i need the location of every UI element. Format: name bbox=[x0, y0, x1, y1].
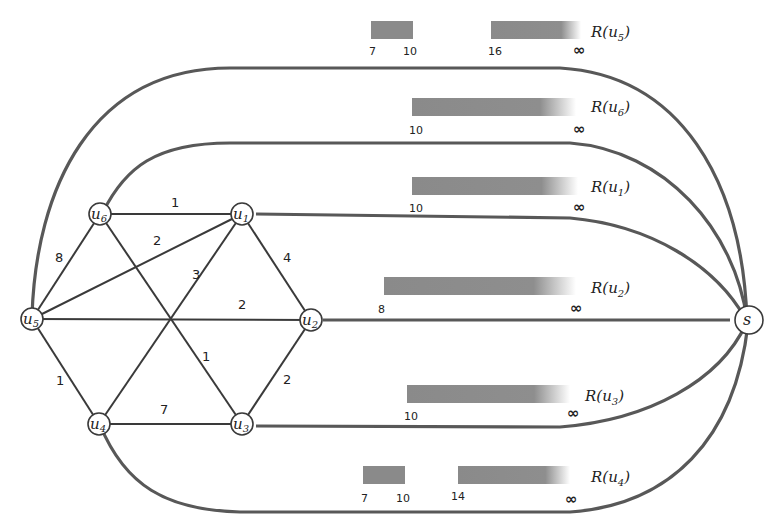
range-u3-tick-10: 10 bbox=[404, 410, 418, 423]
node-u6[interactable]: u6 bbox=[89, 203, 111, 225]
range-u4-tick-10: 10 bbox=[396, 492, 410, 505]
graph-edges bbox=[32, 214, 311, 424]
node-u3[interactable]: u3 bbox=[231, 413, 253, 435]
node-u5[interactable]: u5 bbox=[21, 308, 43, 330]
range-u2-label: R(u2) bbox=[590, 279, 630, 299]
range-u6-infinity: ∞ bbox=[573, 120, 586, 138]
weight-u6-u1: 1 bbox=[171, 195, 179, 210]
range-u5-bar-2 bbox=[491, 21, 581, 39]
graph-diagram: 1 2 3 4 8 2 1 1 2 7 u1 u2 u3 u4 u5 u6 s bbox=[0, 0, 780, 531]
route-u3-s bbox=[256, 324, 746, 427]
range-u5-tick-10: 10 bbox=[403, 45, 417, 58]
range-u5-tick-16: 16 bbox=[488, 45, 502, 58]
range-u5: 7 10 16 ∞ R(u5) bbox=[369, 21, 630, 59]
range-u2-infinity: ∞ bbox=[570, 299, 583, 317]
range-u3: 10 ∞ R(u3) bbox=[404, 385, 624, 423]
node-u2[interactable]: u2 bbox=[300, 309, 322, 331]
range-u4-infinity: ∞ bbox=[565, 490, 578, 508]
range-u1-bar bbox=[412, 177, 578, 195]
weight-u5-u2: 2 bbox=[238, 297, 246, 312]
weight-u4-u1: 3 bbox=[192, 267, 200, 282]
range-u4-bar-1 bbox=[363, 466, 405, 484]
node-u1[interactable]: u1 bbox=[231, 203, 253, 225]
range-u2: 8 ∞ R(u2) bbox=[378, 277, 630, 317]
edge-u5-u4 bbox=[32, 319, 99, 424]
range-u5-bar-1 bbox=[371, 21, 413, 39]
range-u4: 7 10 14 ∞ R(u4) bbox=[361, 466, 630, 508]
range-u4-label: R(u4) bbox=[590, 468, 630, 488]
route-u1-s bbox=[256, 214, 745, 318]
range-u4-tick-14: 14 bbox=[451, 490, 465, 503]
range-u6-tick-10: 10 bbox=[409, 124, 423, 137]
range-u6-label: R(u6) bbox=[590, 98, 630, 118]
edge-u2-u3 bbox=[242, 320, 311, 424]
range-u5-tick-7: 7 bbox=[369, 45, 376, 58]
node-s[interactable]: s bbox=[735, 306, 763, 334]
range-u1-tick-10: 10 bbox=[409, 202, 423, 215]
node-u4[interactable]: u4 bbox=[88, 413, 110, 435]
weight-u2-u3: 2 bbox=[283, 372, 291, 387]
weight-u5-u6: 8 bbox=[55, 250, 63, 265]
node-s-label: s bbox=[743, 310, 751, 329]
range-u3-infinity: ∞ bbox=[567, 404, 580, 422]
range-u3-label: R(u3) bbox=[584, 387, 624, 407]
weight-u5-u4: 1 bbox=[56, 373, 64, 388]
edge-u5-u1 bbox=[32, 214, 242, 319]
range-u1-label: R(u1) bbox=[590, 178, 630, 198]
edge-u1-u2 bbox=[242, 214, 311, 320]
range-u2-bar bbox=[384, 277, 576, 295]
range-u5-label: R(u5) bbox=[590, 23, 630, 43]
range-u6-bar bbox=[412, 98, 576, 116]
range-u6: 10 ∞ R(u6) bbox=[409, 98, 630, 138]
range-u4-bar-2 bbox=[458, 466, 570, 484]
range-u2-tick-8: 8 bbox=[378, 303, 385, 316]
range-u1-infinity: ∞ bbox=[573, 198, 586, 216]
weight-u6-u3: 1 bbox=[202, 349, 210, 364]
weight-u1-u2: 4 bbox=[283, 250, 291, 265]
range-u3-bar bbox=[407, 385, 570, 403]
route-u4-s bbox=[100, 324, 748, 512]
range-u4-tick-7: 7 bbox=[361, 492, 368, 505]
range-u1: 10 ∞ R(u1) bbox=[409, 177, 630, 216]
weight-u4-u3: 7 bbox=[160, 402, 168, 417]
weight-u5-u1: 2 bbox=[153, 233, 161, 248]
range-u5-infinity: ∞ bbox=[573, 41, 586, 59]
